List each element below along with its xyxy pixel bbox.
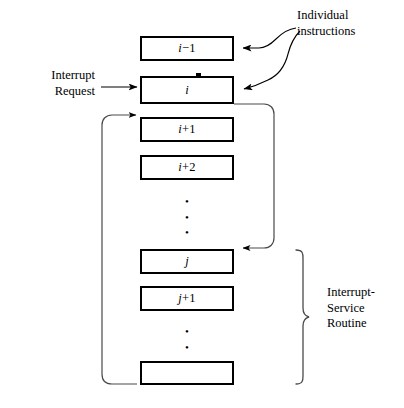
- box-i[interactable]: i: [140, 76, 234, 104]
- box-i-plus-2[interactable]: i+2: [140, 155, 234, 180]
- box-i-plus-2-label: i+2: [178, 161, 195, 174]
- label-individual-instructions-line1: Individual: [297, 8, 401, 24]
- label-interrupt-request-line2: Request: [10, 84, 95, 100]
- ellipsis-lower: • •: [180, 324, 194, 355]
- pointer-to-box-i: [244, 31, 300, 89]
- box-i-plus-1-label: i+1: [178, 123, 195, 136]
- ellipsis-upper: • • •: [180, 194, 194, 241]
- label-isr-line1: Interrupt-: [327, 285, 401, 301]
- ellipsis-dot: •: [180, 340, 194, 356]
- label-isr-line3: Routine: [327, 316, 401, 332]
- box-i-minus-1[interactable]: i−1: [140, 36, 234, 61]
- ellipsis-dot: •: [180, 210, 194, 226]
- box-i-minus-1-label: i−1: [178, 42, 195, 55]
- label-isr-line2: Service: [327, 301, 401, 317]
- branch-to-isr: [234, 104, 274, 248]
- ellipsis-dot: •: [180, 324, 194, 340]
- ellipsis-dot: •: [180, 225, 194, 241]
- label-interrupt-request-line1: Interrupt: [10, 68, 95, 84]
- box-j-label: j: [185, 255, 189, 268]
- current-instruction-tick-icon: [196, 73, 201, 77]
- box-last[interactable]: [140, 361, 234, 385]
- label-interrupt-service-routine: Interrupt- Service Routine: [327, 285, 401, 332]
- ellipsis-dot: •: [180, 194, 194, 210]
- box-i-plus-1[interactable]: i+1: [140, 117, 234, 142]
- box-j-plus-1[interactable]: j+1: [140, 286, 234, 311]
- pointer-to-box-i-minus-1: [243, 28, 296, 48]
- box-j-plus-1-label: j+1: [178, 292, 195, 305]
- label-interrupt-request: Interrupt Request: [10, 68, 95, 99]
- diagram-connectors-layer: [0, 0, 404, 408]
- box-i-label: i: [185, 84, 189, 97]
- label-individual-instructions-line2: instructions: [297, 24, 401, 40]
- box-j[interactable]: j: [140, 249, 234, 274]
- return-from-isr: [102, 115, 137, 384]
- interrupt-diagram: i−1 i i+1 i+2 • • • j j+1 • • Interrupt …: [0, 0, 404, 408]
- label-individual-instructions: Individual instructions: [297, 8, 401, 39]
- isr-brace: [296, 250, 309, 384]
